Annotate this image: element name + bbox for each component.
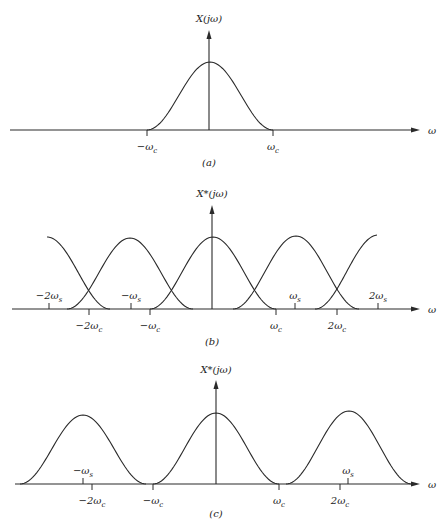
- tick-label-below: 2ωc: [327, 320, 347, 334]
- x-axis-arrow-icon: [411, 307, 420, 312]
- tick-label-above: −ωs: [121, 290, 142, 304]
- tick-label-below: −ωc: [143, 495, 164, 509]
- panel-c: X*(jω)ω−2ωc−ωcωc2ωc−ωsωs(c): [15, 364, 436, 519]
- tick-label-above: 2ωs: [368, 290, 388, 304]
- spectrum-figure: X(jω)ω−ωcωc(a)X*(jω)ω−2ωc−ωcωc2ωc−2ωs−ωs…: [0, 0, 442, 524]
- tick-label-above: −2ωs: [36, 290, 63, 304]
- panel-caption: (c): [209, 508, 223, 519]
- y-axis-label: X*(jω): [195, 188, 227, 199]
- spectrum-curve: [147, 62, 273, 130]
- x-axis-arrow-icon: [411, 128, 420, 133]
- tick-label-above: ωs: [342, 465, 354, 479]
- tick-label-below: −2ωc: [79, 495, 106, 509]
- y-axis-arrow-icon: [210, 205, 215, 214]
- tick-label-above: ωs: [289, 290, 301, 304]
- panel-caption: (a): [202, 157, 216, 168]
- y-axis-label: X(jω): [195, 13, 222, 24]
- tick-label-below: −ωc: [140, 320, 161, 334]
- tick-label-below: ωc: [270, 320, 282, 334]
- spectrum-curve: [150, 237, 276, 309]
- panel-b: X*(jω)ω−2ωc−ωcωc2ωc−2ωs−ωsωs2ωs(b): [12, 188, 436, 347]
- y-axis-label: X*(jω): [199, 364, 231, 375]
- panel-a: X(jω)ω−ωcωc(a): [10, 13, 436, 168]
- tick-label-below: −2ωc: [76, 320, 103, 334]
- tick-label-below: ωc: [267, 141, 279, 155]
- tick-label-below: −ωc: [137, 141, 158, 155]
- spectrum-curve: [315, 235, 377, 309]
- x-axis-arrow-icon: [411, 482, 420, 487]
- x-axis-label: ω: [428, 479, 436, 490]
- tick-label-below: ωc: [273, 495, 285, 509]
- y-axis-arrow-icon: [207, 30, 212, 39]
- x-axis-label: ω: [428, 125, 436, 136]
- x-axis-label: ω: [428, 304, 436, 315]
- panel-caption: (b): [205, 336, 219, 347]
- y-axis-arrow-icon: [214, 380, 219, 389]
- tick-label-below: 2ωc: [330, 495, 350, 509]
- tick-label-above: −ωs: [73, 465, 94, 479]
